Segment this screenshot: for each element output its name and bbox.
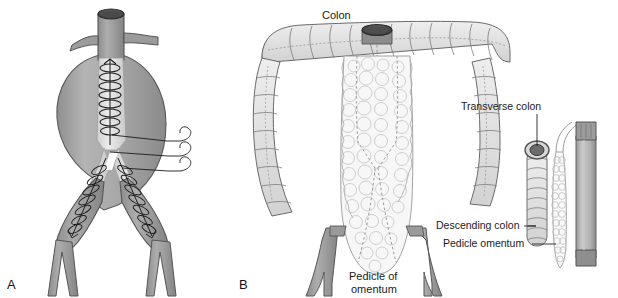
label-pedicle-omentum: Pedicle omentum — [443, 237, 524, 249]
medical-figure: A — [0, 0, 618, 298]
panel-a-illustration: A — [7, 9, 191, 296]
inset-pedicle-omentum — [552, 122, 578, 268]
ascending-colon-limb — [253, 58, 292, 216]
panel-b-illustration: B Colon Pedicle of omentum — [239, 9, 510, 296]
inset-colon-segment — [525, 141, 549, 246]
label-colon: Colon — [322, 9, 351, 21]
label-pedicle-of-omentum-line2: omentum — [351, 283, 397, 295]
descending-colon-limb — [470, 58, 501, 206]
proximal-aorta — [70, 9, 158, 60]
label-descending-colon: Descending colon — [436, 219, 520, 231]
inset-conduit — [576, 122, 596, 266]
inset-detail-diagram: Transverse colon Descending colon Pedicl… — [436, 100, 596, 268]
panel-a-letter: A — [7, 277, 16, 292]
label-pedicle-of-omentum-line1: Pedicle of — [349, 270, 398, 282]
panel-b-letter: B — [239, 277, 248, 292]
label-transverse-colon: Transverse colon — [461, 100, 541, 112]
